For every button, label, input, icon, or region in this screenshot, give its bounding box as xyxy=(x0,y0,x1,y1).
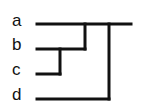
tree-branches xyxy=(0,0,142,110)
